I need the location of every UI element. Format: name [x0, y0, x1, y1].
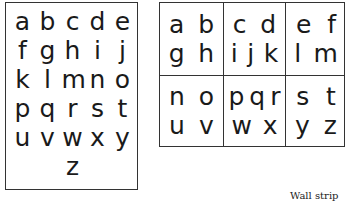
letter: h — [198, 39, 214, 68]
card-row: abcde — [6, 9, 139, 34]
letter: n — [169, 82, 185, 111]
letter: m — [62, 67, 84, 92]
letter: d — [87, 9, 109, 34]
letter: i — [87, 38, 109, 63]
letter: c — [233, 10, 247, 39]
letter: y — [112, 125, 134, 150]
grid-cell: styz — [286, 75, 345, 147]
letter: v — [37, 125, 59, 150]
letter-group: yz — [286, 111, 345, 140]
card-row: pqrst — [6, 96, 139, 121]
letter: h — [62, 38, 84, 63]
caption: Wall strip — [290, 190, 338, 201]
letter: e — [296, 10, 311, 39]
letter: x — [263, 111, 278, 140]
letter: z — [324, 111, 337, 140]
letter: q — [249, 82, 265, 111]
letter: c — [62, 9, 84, 34]
letter: m — [313, 39, 337, 68]
letter: v — [199, 111, 214, 140]
letter: z — [62, 154, 84, 179]
letter: s — [296, 82, 309, 111]
alphabet-grid: abghcdijkeflmnouvpqrwxstyz — [159, 2, 345, 147]
letter: f — [327, 10, 336, 39]
grid-cell: pqrwx — [224, 75, 286, 147]
letter: o — [112, 67, 134, 92]
letter: u — [12, 125, 34, 150]
card-row: z — [6, 154, 139, 179]
letter: k — [264, 39, 278, 68]
letter-group: uv — [160, 111, 223, 140]
grid-cell: cdijk — [224, 3, 286, 75]
letter: f — [12, 38, 34, 63]
letter: g — [37, 38, 59, 63]
letter-group: wx — [224, 111, 285, 140]
letter: b — [198, 10, 214, 39]
letter: r — [62, 96, 84, 121]
letter: j — [247, 39, 254, 68]
letter: w — [62, 125, 84, 150]
letter: w — [231, 111, 251, 140]
letter-group: gh — [160, 39, 223, 68]
alphabet-card: abcdefghijklmnopqrstuvwxyz — [5, 2, 138, 190]
letter: t — [112, 96, 134, 121]
grid-cell: abgh — [160, 3, 224, 75]
letter-group: ijk — [224, 39, 285, 68]
letter-group: pqr — [224, 82, 285, 111]
letter-group: st — [286, 82, 345, 111]
letter: p — [12, 96, 34, 121]
letter-group: lm — [286, 39, 345, 68]
letter: d — [260, 10, 276, 39]
letter: r — [270, 82, 280, 111]
card-row: uvwxy — [6, 125, 139, 150]
letter: g — [169, 39, 185, 68]
letter-group: cd — [224, 10, 285, 39]
letter: k — [12, 67, 34, 92]
letter: t — [326, 82, 336, 111]
letter: q — [37, 96, 59, 121]
letter-group: ef — [286, 10, 345, 39]
letter: y — [295, 111, 310, 140]
letter: s — [87, 96, 109, 121]
letter: e — [112, 9, 134, 34]
grid-cell: eflm — [286, 3, 345, 75]
letter: a — [12, 9, 34, 34]
card-row: klmno — [6, 67, 139, 92]
letter: n — [87, 67, 109, 92]
letter: x — [87, 125, 109, 150]
letter: i — [231, 39, 238, 68]
letter: a — [169, 10, 184, 39]
letter: u — [169, 111, 185, 140]
letter-group: ab — [160, 10, 223, 39]
grid-cell: nouv — [160, 75, 224, 147]
letter: b — [37, 9, 59, 34]
letter-group: no — [160, 82, 223, 111]
letter: o — [199, 82, 214, 111]
letter: j — [112, 38, 134, 63]
letter: l — [294, 39, 301, 68]
letter: p — [228, 82, 244, 111]
letter: l — [37, 67, 59, 92]
card-row: fghij — [6, 38, 139, 63]
